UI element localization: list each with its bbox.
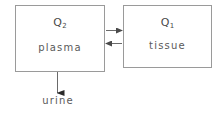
tissue-compartment-box: Q1 tissue	[123, 5, 212, 68]
plasma-compartment-label: plasma	[16, 42, 104, 53]
plasma-compartment-box: Q2 plasma	[15, 5, 105, 72]
plasma-quantity-symbol: Q	[53, 16, 62, 29]
plasma-quantity-label: Q2	[16, 16, 104, 29]
tissue-quantity-label: Q1	[124, 16, 211, 29]
plasma-quantity-subscript: 2	[62, 22, 66, 30]
tissue-compartment-label: tissue	[124, 40, 211, 51]
two-compartment-model-diagram: Q2 plasma Q1 tissue urine	[0, 0, 223, 115]
urine-sink-label: urine	[28, 95, 88, 106]
tissue-quantity-symbol: Q	[161, 16, 170, 29]
tissue-quantity-subscript: 1	[170, 22, 174, 30]
